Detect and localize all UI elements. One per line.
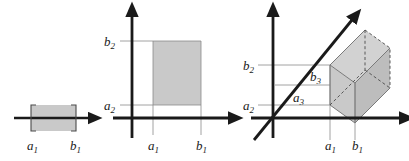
figure-canvas: a1 b1 b2 a2 a1 b1 [0, 0, 409, 161]
rectangle-fill-2d [153, 41, 201, 105]
figure-root: a1 b1 b2 a2 a1 b1 [0, 0, 409, 161]
